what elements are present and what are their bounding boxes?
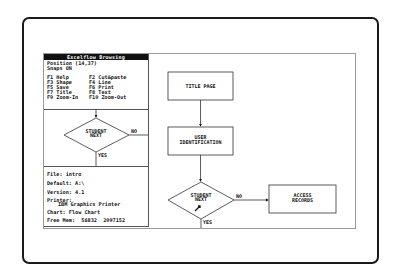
info-chart-type: Chart: Flow Chart xyxy=(47,209,100,215)
key-f10-zoom-out[interactable]: F10 Zoom-Out xyxy=(89,94,126,100)
info-printer-value: IBM Graphics Printer xyxy=(58,201,120,207)
preview-yes-label: YES xyxy=(98,152,107,158)
no-branch-label: NO xyxy=(236,193,242,199)
preview-decision-label-2: NEXT xyxy=(90,132,102,138)
info-default-drive: Default: A:\ xyxy=(47,180,84,186)
app-screen: TITLE PAGE USER IDENTIFICATION STUDENT N… xyxy=(43,53,356,229)
snaps-status: Snaps ON xyxy=(47,65,72,71)
node-user-label-2: IDENTIFICATION xyxy=(179,139,221,145)
info-free-memory: Free Mem: 56832 2097152 xyxy=(47,217,125,223)
preview-no-label: NO xyxy=(131,128,137,134)
info-file: File: intro xyxy=(47,171,81,177)
decision-label-2: NEXT xyxy=(195,196,207,202)
access-label-2: RECORDS xyxy=(292,197,313,203)
yes-branch-label: YES xyxy=(203,219,212,225)
info-version: Version: 4.1 xyxy=(47,189,84,195)
node-title-page-label: TITLE PAGE xyxy=(185,83,215,89)
zoom-preview[interactable]: STUDENT NEXT NO YES xyxy=(44,110,148,166)
key-f9-zoom-in[interactable]: F9 Zoom-In xyxy=(47,94,78,100)
browsing-panel: Excelflow Browsing Position (14,37) Snap… xyxy=(44,54,149,227)
panel-divider-bottom xyxy=(44,166,148,167)
